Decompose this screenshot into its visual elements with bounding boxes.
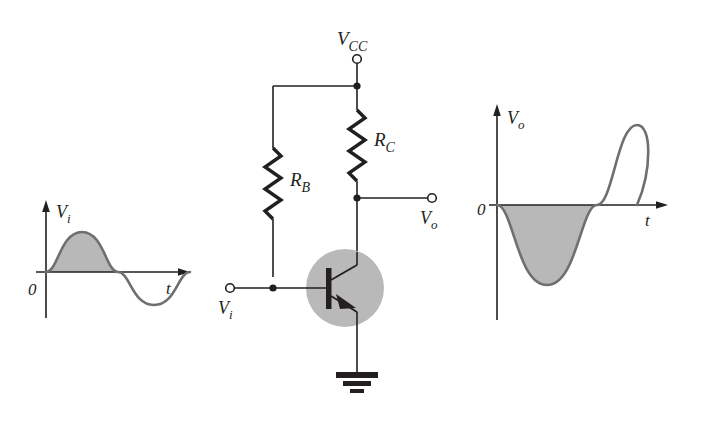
ground-bar-2: [343, 381, 371, 386]
output-x-axis-arrow-icon: [656, 201, 668, 209]
input-terminal[interactable]: [226, 284, 235, 293]
output-waveform-plot: Vo 0 t: [477, 104, 668, 320]
input-wave-shaded-area: [46, 232, 118, 272]
output-terminal-label: Vo: [420, 208, 438, 232]
output-y-axis-arrow-icon: [493, 104, 501, 116]
output-y-axis-label: Vo: [507, 108, 525, 132]
output-x-axis-label: t: [645, 211, 651, 230]
resistor-rb-label: RB: [289, 169, 311, 195]
vcc-terminal[interactable]: [353, 55, 362, 64]
figure-canvas: Vi 0 t VCC RB RC Vo: [0, 0, 701, 427]
circuit-and-waveforms-svg: Vi 0 t VCC RB RC Vo: [0, 0, 701, 427]
output-terminal[interactable]: [428, 194, 437, 203]
resistor-rc: [349, 110, 365, 181]
input-origin-label: 0: [28, 280, 37, 299]
resistor-rc-label: RC: [373, 129, 396, 155]
input-waveform-plot: Vi 0 t: [28, 200, 190, 318]
input-y-axis-arrow-icon: [42, 200, 50, 212]
vcc-label: VCC: [337, 28, 368, 54]
input-terminal-label: Vi: [218, 298, 233, 322]
ground-bar-3: [350, 389, 364, 393]
output-origin-label: 0: [477, 200, 486, 219]
amplifier-circuit: VCC RB RC Vo: [218, 28, 438, 393]
resistor-rb: [265, 148, 281, 219]
ground-bar-1: [336, 372, 378, 378]
input-y-axis-label: Vi: [56, 202, 71, 226]
output-wave-shaded-area: [497, 205, 597, 285]
transistor-base-bar: [326, 268, 332, 309]
